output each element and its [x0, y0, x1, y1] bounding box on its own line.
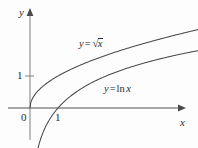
- curve-label-sqrt: y=√x: [79, 38, 103, 50]
- x-axis-label: x: [180, 117, 185, 128]
- curve-label-sqrt-arg: x: [98, 38, 104, 50]
- y-axis-arrowhead: [27, 8, 34, 16]
- curve-label-ln-equals: =: [109, 83, 117, 94]
- math-figure-sqrt-vs-ln: y x 0 1 1 y=√x y=lnx: [0, 0, 198, 148]
- x-axis-arrowhead: [178, 104, 186, 111]
- curve-label-sqrt-lead: y: [79, 38, 84, 49]
- curve-ln-x: [35, 51, 198, 148]
- curve-label-sqrt-equals: =: [84, 38, 92, 49]
- y-axis-label: y: [19, 7, 24, 18]
- curve-label-ln-fn: ln: [117, 83, 125, 94]
- curve-sqrt-x: [30, 30, 198, 108]
- origin-label: 0: [21, 112, 27, 123]
- plot-canvas: [0, 0, 198, 148]
- x-tick-label-1: 1: [55, 112, 61, 123]
- y-tick-label-1: 1: [17, 70, 23, 81]
- radical-icon: √x: [92, 38, 104, 50]
- curve-label-ln-arg: x: [125, 83, 131, 94]
- curve-label-ln: y=lnx: [104, 84, 131, 95]
- curve-label-ln-lead: y: [104, 83, 109, 94]
